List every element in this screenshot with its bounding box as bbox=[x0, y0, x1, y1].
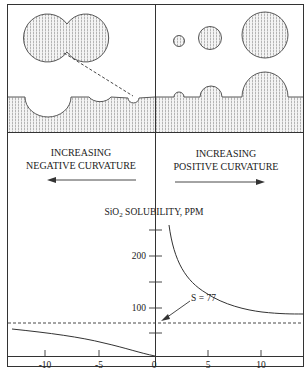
concave-surface bbox=[8, 97, 155, 132]
top-left-panel bbox=[8, 14, 155, 132]
large-particle bbox=[242, 12, 288, 58]
small-particle bbox=[174, 36, 185, 47]
x-tick-0: 0 bbox=[152, 360, 157, 370]
x-tick-neg5: -5 bbox=[95, 360, 103, 370]
medium-particle bbox=[199, 27, 222, 50]
x-tick-5: 5 bbox=[206, 360, 211, 370]
x-tick-10: 10 bbox=[256, 360, 266, 370]
left-label-line2: NEGATIVE CURVATURE bbox=[26, 160, 136, 171]
solubility-chart: SiO2 SOLUBILITY, PPM 200 100 -10 -5 0 5 … bbox=[8, 207, 304, 370]
y-tick-200: 200 bbox=[132, 251, 147, 261]
positive-curvature-curve bbox=[169, 225, 303, 314]
s-annotation-arrow-icon bbox=[161, 301, 190, 321]
right-label-line2: POSITIVE CURVATURE bbox=[174, 161, 279, 172]
y-tick-100: 100 bbox=[132, 303, 147, 313]
s-annotation: S = 77 bbox=[191, 293, 216, 303]
top-right-panel bbox=[156, 12, 303, 132]
y-axis-title: SiO2 SOLUBILITY, PPM bbox=[104, 207, 204, 219]
convex-surface bbox=[156, 72, 303, 132]
left-label-line1: INCREASING bbox=[51, 147, 112, 158]
left-arrow-icon bbox=[47, 177, 136, 183]
x-tick-neg10: -10 bbox=[39, 360, 52, 370]
dashed-connector bbox=[64, 53, 133, 96]
right-label-line1: INCREASING bbox=[196, 148, 257, 159]
right-arrow-icon bbox=[175, 179, 265, 185]
curvature-solubility-diagram: INCREASING NEGATIVE CURVATURE INCREASING… bbox=[0, 0, 307, 372]
negative-curvature-curve bbox=[12, 329, 155, 356]
